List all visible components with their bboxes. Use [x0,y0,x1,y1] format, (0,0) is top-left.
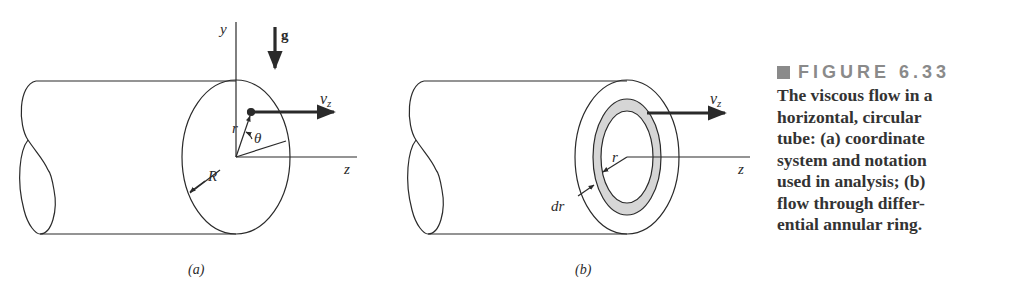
y-axis-label-a: y [218,21,227,37]
figure-number-text: FIGURE 6.33 [798,62,950,83]
caption-line: flow through differ- [777,193,1011,215]
caption-square-icon [777,66,790,79]
velocity-label-a: vz [320,90,332,109]
z-axis-label-b: z [737,161,744,177]
gravity-label: g [281,27,289,43]
theta-arc [246,132,252,139]
R-label: R [207,168,217,184]
velocity-label-b: vz [710,90,722,109]
caption-line: used in analysis; (b) [777,171,1011,193]
caption-line: system and notation [777,150,1011,172]
figure-number: FIGURE 6.33 [777,62,1011,83]
r-label-b: r [612,149,618,165]
caption-line: ential annular ring. [777,214,1011,236]
theta-label: θ [254,130,262,146]
panel-b [408,80,750,234]
r-label-a: r [232,120,238,136]
caption-line: The viscous flow in a [777,85,1011,107]
z-axis-label-a: z [343,161,350,177]
panel-a [20,22,357,234]
caption-line: tube: (a) coordinate [777,128,1011,150]
figure-caption: FIGURE 6.33 The viscous flow in a horizo… [777,62,1011,236]
dr-label: dr [551,198,565,214]
panel-a-label: (a) [188,262,205,278]
caption-text: The viscous flow in a horizontal, circul… [777,85,1011,236]
r-arrow-a [236,116,250,157]
panel-b-label: (b) [575,262,592,278]
caption-line: horizontal, circular [777,107,1011,129]
